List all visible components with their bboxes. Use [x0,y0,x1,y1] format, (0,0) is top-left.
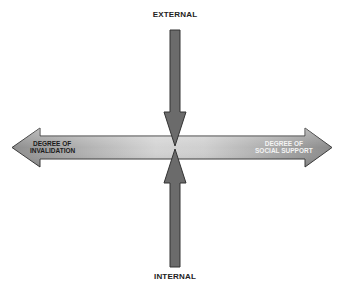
external-label: EXTERNAL [145,10,205,19]
external-arrow-down [164,30,186,146]
social-support-label-line1: DEGREE OF [255,140,313,147]
internal-arrow-up [164,149,186,267]
invalidation-label-line1: DEGREE OF [30,140,75,147]
invalidation-label-line2: INVALIDATION [30,147,75,154]
social-support-label: DEGREE OF SOCIAL SUPPORT [255,140,313,154]
social-support-label-line2: SOCIAL SUPPORT [255,147,313,154]
invalidation-label: DEGREE OF INVALIDATION [30,140,75,154]
internal-label: INTERNAL [145,272,205,281]
